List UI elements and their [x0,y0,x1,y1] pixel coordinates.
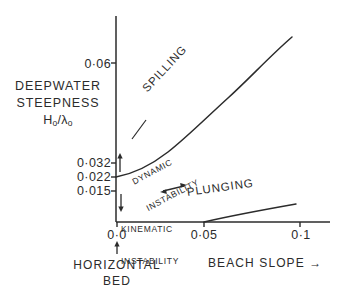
y-tick-label-006: 0·06 [57,57,111,71]
spilling-leader-line [132,120,146,139]
x-axis-title: BEACH SLOPE → [208,256,322,270]
plunging-surging-boundary-line [204,204,296,222]
dynamic-instability-line1: DYNAMIC [130,150,186,186]
kinematic-instability-line2: INSTABILITY [121,256,179,267]
x-tick-label-01: 0·1 [286,228,316,242]
y-tick-label-0032: 0·032 [57,156,111,170]
y-axis-title-line1: DEEPWATER [6,78,110,95]
x-axis-title-text: BEACH SLOPE [208,256,305,270]
y-tick-label-0022: 0·022 [57,170,111,184]
arrow-right-icon: → [309,256,322,270]
y-axis-title-line2: STEEPNESS [6,95,110,112]
y-axis-title: DEEPWATER STEEPNESS Ho/λo [6,78,110,130]
x-tick-label-005: 0·05 [184,228,224,242]
kinematic-instability-label: KINEMATIC INSTABILITY [121,203,179,277]
y-axis-title-symbol: Ho/λo [6,112,110,130]
horizontal-bed-arrow-up [114,241,119,254]
y-tick-label-0015: 0·015 [57,184,111,198]
symbol-lambda-subscript: o [68,118,73,128]
kinematic-instability-line1: KINEMATIC [121,224,179,235]
